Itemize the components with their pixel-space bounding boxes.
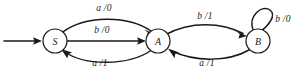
edge-label-b-to-a-a1: a /1 — [199, 58, 214, 68]
state-node-a[interactable]: A — [146, 29, 170, 53]
edge-label-a-to-b-b1: b /1 — [197, 11, 212, 21]
fsm-diagram: S A B a /0 b /0 a /1 b /1 a /1 b /0 — [0, 0, 298, 71]
edge-label-a-to-s-a1: a /1 — [92, 58, 107, 68]
edge-label-s-to-a-b0: b /0 — [94, 25, 109, 35]
state-label-s: S — [53, 36, 58, 47]
state-node-b[interactable]: B — [246, 29, 270, 53]
transition-a-to-b-b1 — [166, 25, 247, 39]
edge-label-s-to-a-a0: a /0 — [96, 3, 111, 13]
state-label-a: A — [154, 36, 162, 47]
start-arrow — [4, 37, 42, 45]
fsm-canvas: S A B a /0 b /0 a /1 b /1 a /1 b /0 — [0, 0, 298, 71]
transition-s-to-a-b0 — [67, 37, 146, 45]
state-node-s[interactable]: S — [43, 29, 67, 53]
edge-label-b-to-b-b0: b /0 — [275, 14, 290, 24]
state-label-b: B — [255, 36, 261, 47]
